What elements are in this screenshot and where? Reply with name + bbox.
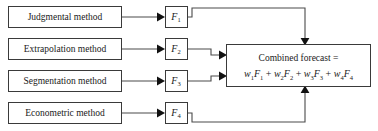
combined-forecast-diagram: Judgmental method Extrapolation method S…: [0, 0, 378, 131]
arrowhead-f3-to-combined: [219, 72, 227, 81]
method-box-econometric[interactable]: Econometric method: [9, 103, 122, 124]
method-label-judgmental: Judgmental method: [28, 12, 103, 22]
connector-f4-to-combined: [188, 93, 305, 122]
arrowhead-method4-to-f4: [157, 109, 165, 118]
connector-f3-to-combined: [188, 76, 219, 81]
combined-forecast-heading: Combined forecast =: [259, 53, 339, 63]
method-label-segmentation: Segmentation method: [23, 76, 106, 86]
forecast-subscript: 2: [177, 48, 180, 55]
method-box-segmentation[interactable]: Segmentation method: [9, 71, 122, 92]
method-box-extrapolation[interactable]: Extrapolation method: [9, 39, 122, 60]
arrowhead-f2-to-combined: [219, 51, 227, 60]
formula-operator-1: +: [263, 68, 274, 79]
connector-f1-to-combined: [188, 8, 305, 38]
arrowhead-method2-to-f2: [157, 45, 165, 54]
forecast-box-f1[interactable]: F1: [166, 7, 188, 28]
method-label-econometric: Econometric method: [25, 108, 105, 118]
method-label-extrapolation: Extrapolation method: [24, 44, 107, 54]
forecast-box-f2[interactable]: F2: [166, 39, 188, 60]
forecast-subscript: 1: [177, 16, 180, 23]
method-to-forecast-connectors: [122, 13, 165, 118]
formula-operator-2: +: [293, 68, 304, 79]
method-box-judgmental[interactable]: Judgmental method: [9, 7, 122, 28]
connector-f2-to-combined: [188, 49, 219, 55]
forecast-box-f4[interactable]: F4: [166, 103, 188, 124]
combined-forecast-box[interactable]: Combined forecast = w1F1 + w2F2 + w3F3 +…: [227, 45, 371, 87]
forecast-subscript: 3: [177, 80, 180, 87]
formula-operator-3: +: [323, 68, 334, 79]
arrowhead-method1-to-f1: [157, 13, 165, 22]
forecast-box-f3[interactable]: F3: [166, 71, 188, 92]
arrowhead-method3-to-f3: [157, 77, 165, 86]
